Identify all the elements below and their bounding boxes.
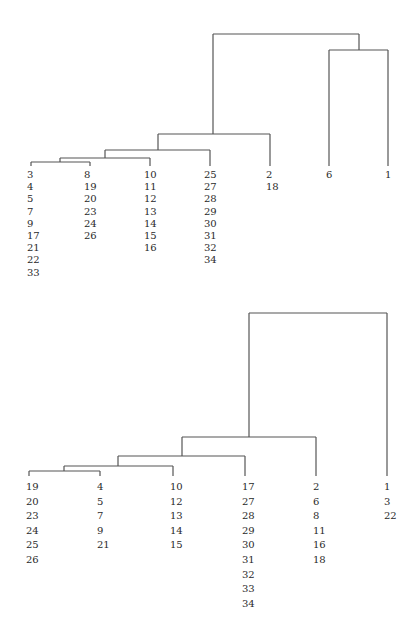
top-dendrogram: 3 4 5 7 9 17 21 22 33 8 19 20 23 24 26 1…: [0, 0, 420, 300]
leaf-label: 33: [27, 267, 40, 279]
leaf-label: 14: [144, 218, 157, 230]
leaf-label: 28: [242, 509, 255, 524]
leaf-label: 24: [84, 218, 97, 230]
leaf-label: 7: [97, 509, 110, 524]
leaf-label: 13: [144, 206, 157, 218]
leaf-label: 11: [313, 524, 326, 539]
top-leaf-cluster-6: 6: [326, 169, 332, 181]
leaf-label: 2: [266, 169, 279, 181]
leaf-label: 21: [27, 242, 40, 254]
leaf-label: 21: [97, 538, 110, 553]
top-leaf-cluster-7: 1: [385, 169, 391, 181]
leaf-label: 5: [97, 495, 110, 510]
leaf-label: 18: [266, 181, 279, 193]
bottom-leaf-cluster-3: 10 12 13 14 15: [170, 480, 183, 553]
leaf-label: 1: [385, 169, 391, 181]
leaf-label: 12: [170, 495, 183, 510]
leaf-label: 17: [242, 480, 255, 495]
leaf-label: 13: [170, 509, 183, 524]
bottom-dendrogram-tree: [0, 300, 420, 485]
leaf-label: 3: [27, 169, 40, 181]
leaf-label: 2: [313, 480, 326, 495]
leaf-label: 10: [170, 480, 183, 495]
leaf-label: 23: [84, 206, 97, 218]
leaf-label: 28: [204, 193, 217, 205]
leaf-label: 30: [204, 218, 217, 230]
leaf-label: 27: [242, 495, 255, 510]
leaf-label: 19: [84, 181, 97, 193]
leaf-label: 34: [242, 597, 255, 612]
leaf-label: 22: [384, 509, 397, 524]
leaf-label: 34: [204, 254, 217, 266]
leaf-label: 5: [27, 193, 40, 205]
leaf-label: 23: [26, 509, 39, 524]
bottom-leaf-cluster-2: 4 5 7 9 21: [97, 480, 110, 553]
bottom-leaf-cluster-4: 17 27 28 29 30 31 32 33 34: [242, 480, 255, 611]
leaf-label: 19: [26, 480, 39, 495]
top-leaf-cluster-3: 10 11 12 13 14 15 16: [144, 169, 157, 254]
leaf-label: 11: [144, 181, 157, 193]
leaf-label: 25: [26, 538, 39, 553]
bottom-leaf-cluster-1: 19 20 23 24 25 26: [26, 480, 39, 568]
leaf-label: 12: [144, 193, 157, 205]
leaf-label: 6: [313, 495, 326, 510]
leaf-label: 16: [313, 538, 326, 553]
leaf-label: 9: [97, 524, 110, 539]
leaf-label: 16: [144, 242, 157, 254]
bottom-leaf-cluster-5: 2 6 8 11 16 18: [313, 480, 326, 568]
top-leaf-cluster-5: 2 18: [266, 169, 279, 193]
leaf-label: 29: [242, 524, 255, 539]
top-leaf-cluster-4: 25 27 28 29 30 31 32 34: [204, 169, 217, 267]
leaf-label: 17: [27, 230, 40, 242]
leaf-label: 30: [242, 538, 255, 553]
leaf-label: 4: [97, 480, 110, 495]
leaf-label: 1: [384, 480, 397, 495]
top-dendrogram-tree: [0, 0, 420, 170]
leaf-label: 33: [242, 582, 255, 597]
leaf-label: 29: [204, 206, 217, 218]
top-leaf-cluster-2: 8 19 20 23 24 26: [84, 169, 97, 242]
leaf-label: 6: [326, 169, 332, 181]
bottom-leaf-cluster-6: 1 3 22: [384, 480, 397, 524]
leaf-label: 14: [170, 524, 183, 539]
leaf-label: 8: [313, 509, 326, 524]
leaf-label: 31: [242, 553, 255, 568]
leaf-label: 18: [313, 553, 326, 568]
bottom-dendrogram: 19 20 23 24 25 26 4 5 7 9 21 10 12 13 14…: [0, 300, 420, 643]
top-leaf-cluster-1: 3 4 5 7 9 17 21 22 33: [27, 169, 40, 279]
leaf-label: 20: [26, 495, 39, 510]
leaf-label: 25: [204, 169, 217, 181]
leaf-label: 32: [242, 568, 255, 583]
leaf-label: 15: [170, 538, 183, 553]
leaf-label: 20: [84, 193, 97, 205]
leaf-label: 31: [204, 230, 217, 242]
leaf-label: 15: [144, 230, 157, 242]
leaf-label: 7: [27, 206, 40, 218]
leaf-label: 3: [384, 495, 397, 510]
leaf-label: 26: [26, 553, 39, 568]
leaf-label: 32: [204, 242, 217, 254]
leaf-label: 24: [26, 524, 39, 539]
leaf-label: 26: [84, 230, 97, 242]
leaf-label: 22: [27, 254, 40, 266]
leaf-label: 9: [27, 218, 40, 230]
leaf-label: 10: [144, 169, 157, 181]
leaf-label: 8: [84, 169, 97, 181]
leaf-label: 27: [204, 181, 217, 193]
leaf-label: 4: [27, 181, 40, 193]
